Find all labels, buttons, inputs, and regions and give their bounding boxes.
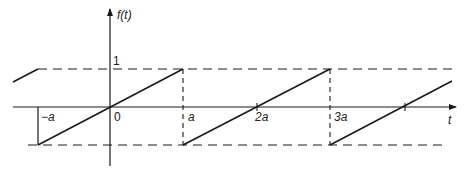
x-axis-label: t bbox=[448, 113, 452, 127]
tick-label-3a: 3a bbox=[334, 110, 348, 124]
level-label-1: 1 bbox=[113, 54, 120, 68]
tick-label-0: 0 bbox=[114, 110, 121, 124]
ramp-3 bbox=[330, 81, 452, 145]
ramp-left-partial bbox=[13, 69, 38, 82]
tick-label-a: a bbox=[188, 110, 195, 124]
tick-label-2a: 2a bbox=[254, 110, 269, 124]
y-axis-label: f(t) bbox=[117, 8, 132, 22]
sawtooth-diagram: f(t) t 1 −a 0 a 2a 3a bbox=[0, 0, 467, 171]
tick-label-neg-a: −a bbox=[41, 110, 55, 124]
